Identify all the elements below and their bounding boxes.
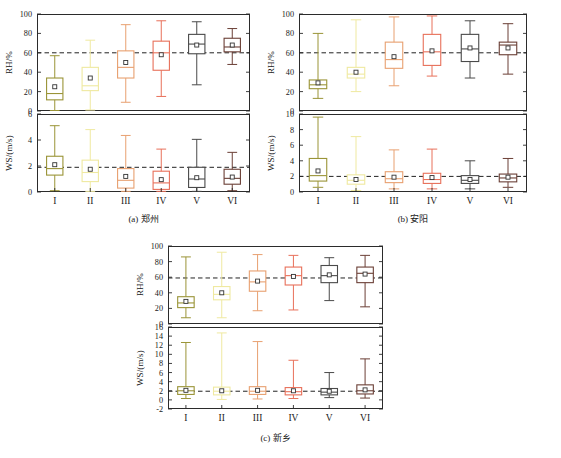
box-plot-II <box>82 40 98 110</box>
svg-text:0: 0 <box>159 396 163 405</box>
svg-text:60: 60 <box>24 49 32 58</box>
axis-title-ws: WS/(m/s) <box>135 327 145 409</box>
category-label: VI <box>360 413 370 423</box>
axis-title-rh: RH/% <box>135 246 145 324</box>
box-plot-II <box>214 333 230 400</box>
svg-text:2: 2 <box>28 162 32 171</box>
svg-text:20: 20 <box>155 304 163 313</box>
svg-text:4: 4 <box>290 157 294 166</box>
svg-text:40: 40 <box>24 68 32 77</box>
subplot-a-rh: 020406080100RH/% <box>37 14 250 111</box>
svg-text:0: 0 <box>28 188 32 197</box>
category-label: II <box>353 196 359 206</box>
category-label: V <box>467 196 474 206</box>
box-plot-IV <box>423 149 440 189</box>
box-plot-I <box>47 126 63 191</box>
box-plot-III <box>118 25 134 103</box>
box-plot-I <box>47 56 63 111</box>
category-label: V <box>193 196 200 206</box>
svg-text:2: 2 <box>290 172 294 181</box>
box-plot-VI <box>357 359 373 398</box>
category-label: I <box>316 196 319 206</box>
subplot-c-rh: 020406080100RH/% <box>168 246 383 324</box>
svg-text:40: 40 <box>155 289 163 298</box>
subplot-b-ws: 0246810IIIIIIIVVVIWS/(m/s) <box>299 114 527 192</box>
box-plot-VI <box>357 255 373 306</box>
svg-text:4: 4 <box>159 378 163 387</box>
box-plot-IV <box>153 149 169 191</box>
plot-canvas: -20246810121416IIIIIIIVVVI <box>168 327 383 409</box>
svg-text:6: 6 <box>28 110 32 119</box>
svg-text:80: 80 <box>24 29 32 38</box>
category-label: III <box>253 413 263 423</box>
svg-text:8: 8 <box>290 126 294 135</box>
box-plot-V <box>461 21 478 78</box>
category-label: I <box>53 196 56 206</box>
svg-text:100: 100 <box>282 10 294 19</box>
category-label: V <box>326 413 333 423</box>
box-plot-V <box>189 22 205 85</box>
box-plot-IV <box>285 255 301 310</box>
box-plot-I <box>309 117 326 187</box>
subplot-a-ws: 0246IIIIIIIVVVIWS/(m/s) <box>37 114 250 192</box>
box-plot-II <box>347 20 364 92</box>
box-plot-II <box>82 130 98 192</box>
svg-text:80: 80 <box>286 29 294 38</box>
svg-text:10: 10 <box>286 110 294 119</box>
box-plot-III <box>249 342 265 399</box>
box-plot-VI <box>499 24 516 74</box>
box-plot-IV <box>423 16 440 76</box>
svg-text:8: 8 <box>159 359 163 368</box>
category-label: III <box>121 196 131 206</box>
box-plot-VI <box>224 29 240 65</box>
box-plot-III <box>385 150 402 189</box>
svg-text:14: 14 <box>155 332 163 341</box>
box-plot-IV <box>153 21 169 97</box>
svg-text:100: 100 <box>151 242 163 251</box>
box-plot-I <box>178 342 194 398</box>
svg-text:100: 100 <box>20 10 32 19</box>
plot-canvas: 020406080100 <box>168 246 383 324</box>
panel-caption-b: (b) 安阳 <box>299 212 527 225</box>
box-plot-III <box>249 255 265 311</box>
box-plot-I <box>309 33 326 98</box>
svg-text:4: 4 <box>28 136 32 145</box>
svg-text:20: 20 <box>24 88 32 97</box>
box-plot-III <box>385 17 402 86</box>
axis-title-ws: WS/(m/s) <box>4 114 14 192</box>
plot-canvas: 0246IIIIIIIVVVI <box>37 114 250 192</box>
box-plot-V <box>189 139 205 191</box>
subplot-b-rh: 020406080100RH/% <box>299 14 527 111</box>
plot-canvas: 0246810IIIIIIIVVVI <box>299 114 527 192</box>
box-plot-VI <box>224 152 240 190</box>
svg-text:60: 60 <box>155 273 163 282</box>
panel-caption-c: (c) 新乡 <box>168 431 383 444</box>
category-label: IV <box>427 196 437 206</box>
svg-text:60: 60 <box>286 49 294 58</box>
plot-canvas: 020406080100 <box>299 14 527 111</box>
category-label: IV <box>156 196 166 206</box>
category-label: III <box>389 196 399 206</box>
box-plot-II <box>214 252 230 318</box>
plot-canvas: 020406080100 <box>37 14 250 111</box>
axis-title-rh: RH/% <box>266 14 276 111</box>
category-label: VI <box>227 196 237 206</box>
axis-title-ws: WS/(m/s) <box>266 114 276 192</box>
panel-caption-a: (a) 郑州 <box>37 212 250 225</box>
category-label: II <box>219 413 225 423</box>
svg-text:20: 20 <box>286 88 294 97</box>
box-plot-V <box>461 161 478 189</box>
svg-text:6: 6 <box>290 141 294 150</box>
category-label: VI <box>503 196 513 206</box>
svg-text:10: 10 <box>155 350 163 359</box>
svg-text:-2: -2 <box>156 405 163 414</box>
category-label: I <box>184 413 187 423</box>
svg-text:6: 6 <box>159 369 163 378</box>
svg-text:40: 40 <box>286 68 294 77</box>
box-plot-III <box>118 135 134 191</box>
svg-text:12: 12 <box>155 341 163 350</box>
subplot-c-ws: -20246810121416IIIIIIIVVVIWS/(m/s) <box>168 327 383 409</box>
svg-text:0: 0 <box>290 188 294 197</box>
figure-boxplot-rh-ws: 020406080100RH/%0246IIIIIIIVVVIWS/(m/s)(… <box>0 0 561 458</box>
box-plot-V <box>321 373 337 398</box>
